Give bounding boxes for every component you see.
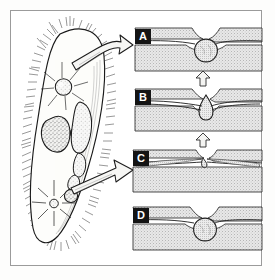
vesicle-c [202, 158, 208, 167]
panel-label-c: C [133, 151, 149, 166]
panel-label-a: A [135, 29, 151, 44]
macronucleus [41, 116, 70, 152]
sequence-arrow-c-to-b [196, 133, 210, 147]
panel-d [133, 207, 262, 250]
panel-a [135, 28, 262, 71]
vesicle-a [195, 39, 218, 62]
panel-b [135, 89, 262, 131]
sequence-arrow-b-to-a [196, 71, 210, 86]
vesicle-d [194, 218, 217, 241]
figure-root: A B C D [0, 0, 275, 280]
figure-illustration-plate: A B C D [0, 0, 275, 280]
panel-c [133, 150, 262, 192]
panel-label-b: B [135, 90, 151, 105]
panel-label-d: D [133, 208, 149, 223]
